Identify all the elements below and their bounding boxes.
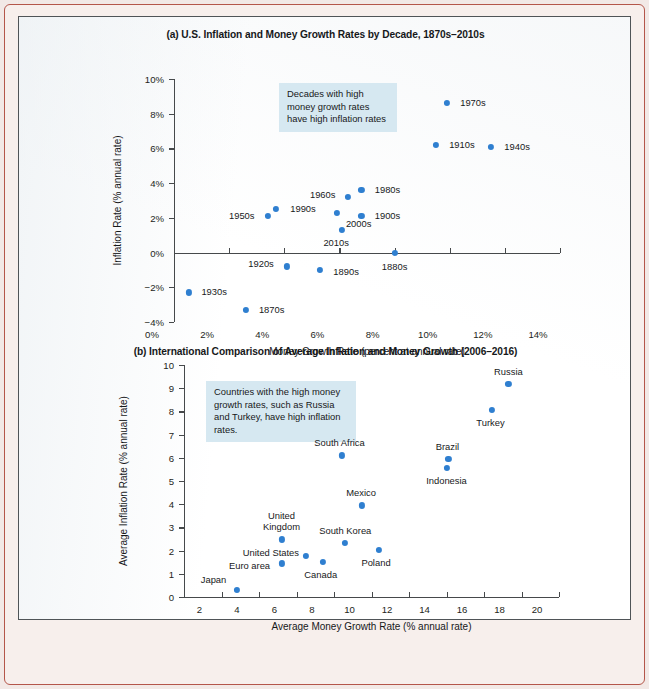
y-tick (179, 597, 184, 598)
data-point (505, 380, 511, 386)
data-point-label: Brazil (436, 442, 459, 453)
data-point-label: 1890s (333, 267, 359, 278)
y-tick-label: 7 (140, 429, 174, 440)
x-tick-label: 20 (515, 604, 559, 615)
x-tick (522, 592, 523, 597)
y-tick-label: 4 (140, 499, 174, 510)
y-tick (179, 527, 184, 528)
y-tick (179, 481, 184, 482)
y-tick (179, 504, 184, 505)
x-tick (560, 248, 561, 253)
data-point-label: 1900s (375, 211, 401, 222)
data-point-label: 1960s (310, 190, 336, 201)
x-tick (334, 592, 335, 597)
y-tick-label: 9 (140, 383, 174, 394)
data-point (433, 142, 439, 148)
data-point (443, 465, 449, 471)
data-point-label: 1910s (449, 140, 475, 151)
data-point (278, 536, 284, 542)
data-point-label: Indonesia (426, 476, 467, 487)
y-axis-title: Average Inflation Rate (% annual rate) (118, 365, 129, 597)
y-tick-label: 3 (140, 522, 174, 533)
y-tick (179, 388, 184, 389)
data-point (265, 213, 271, 219)
y-tick (169, 183, 174, 184)
y-tick (169, 218, 174, 219)
data-point (358, 187, 364, 193)
y-tick-label: 2 (140, 545, 174, 556)
chart-a-title: (a) U.S. Inflation and Money Growth Rate… (19, 29, 632, 40)
y-tick-label: 8 (140, 406, 174, 417)
x-tick (447, 592, 448, 597)
data-point-label: United States (243, 548, 299, 559)
data-point (284, 263, 290, 269)
y-tick (179, 365, 184, 366)
x-tick (229, 248, 230, 253)
data-point (186, 289, 192, 295)
data-point (376, 547, 382, 553)
data-point (338, 452, 344, 458)
data-point (233, 587, 239, 593)
data-point (273, 206, 279, 212)
data-point-label: Canada (304, 569, 337, 580)
chart-panel-a: (a) U.S. Inflation and Money Growth Rate… (19, 17, 632, 337)
data-point-label: 1940s (504, 141, 530, 152)
data-point-label: Turkey (476, 418, 504, 429)
data-point-label: Euro area (229, 561, 270, 572)
x-tick (409, 592, 410, 597)
y-tick-label: 0% (130, 247, 164, 258)
figure-container: (a) U.S. Inflation and Money Growth Rate… (18, 16, 631, 620)
data-point-label: 1920s (248, 259, 274, 270)
data-point (339, 227, 345, 233)
data-point (342, 540, 348, 546)
y-tick (179, 574, 184, 575)
data-point-label: 1970s (460, 98, 486, 109)
chart-panel-b: (b) International Comparison of Average … (19, 337, 632, 621)
y-tick-label: 2% (130, 212, 164, 223)
data-point (317, 267, 323, 273)
data-point (444, 100, 450, 106)
data-point (320, 559, 326, 565)
x-tick (484, 592, 485, 597)
y-tick (169, 287, 174, 288)
x-tick (505, 248, 506, 253)
data-point-label: 1930s (201, 287, 227, 298)
data-point-label: 1980s (375, 185, 401, 196)
y-tick-label: 6% (130, 143, 164, 154)
data-point-label: UnitedKingdom (263, 511, 300, 532)
y-tick (179, 435, 184, 436)
data-point-label: 1880s (382, 261, 408, 272)
data-point-label: 1990s (290, 204, 316, 215)
x-tick (559, 592, 560, 597)
x-tick (284, 248, 285, 253)
chart-b-plot-area: 1098765432102468101214161820Average Mone… (184, 365, 559, 597)
data-point (278, 560, 284, 566)
data-point (345, 194, 351, 200)
chart-annotation: Decades with high money growth rates hav… (279, 83, 397, 132)
y-tick-label: −2% (130, 282, 164, 293)
data-point (359, 502, 365, 508)
data-point-label: South Korea (319, 526, 371, 537)
y-tick-label: −4% (130, 317, 164, 328)
x-tick (339, 248, 340, 253)
y-tick (179, 458, 184, 459)
x-axis-line (174, 253, 560, 254)
data-point (445, 456, 451, 462)
y-tick-label: 6 (140, 452, 174, 463)
y-tick (179, 411, 184, 412)
data-point-label: 2000s (346, 218, 372, 229)
data-point-label: 1870s (259, 305, 285, 316)
data-point-label: 2010s (323, 238, 349, 249)
data-point (243, 307, 249, 313)
y-axis-title: Inflation Rate (% annual rate) (112, 79, 123, 322)
y-tick (169, 114, 174, 115)
x-axis-line (184, 597, 559, 598)
page-background: (a) U.S. Inflation and Money Growth Rate… (0, 0, 649, 689)
y-tick (169, 148, 174, 149)
data-point (391, 249, 397, 255)
y-tick (169, 322, 174, 323)
y-tick-label: 8% (130, 108, 164, 119)
y-axis-line (174, 79, 175, 322)
x-axis-title: Average Money Growth Rate (% annual rate… (272, 621, 472, 632)
data-point (488, 407, 494, 413)
